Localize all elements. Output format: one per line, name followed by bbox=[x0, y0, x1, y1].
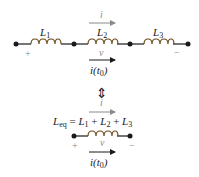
minus-sign: − bbox=[129, 140, 135, 151]
voltage-label-top: v bbox=[99, 47, 104, 58]
voltage-label-bottom: v bbox=[100, 137, 105, 148]
equivalent-inductance-equation: Leq = L1 + L2 + L3 bbox=[52, 115, 132, 129]
top-circuit: i L1 L2 L3 + v − i(t0) bbox=[14, 9, 191, 78]
node-dot-icon bbox=[72, 42, 77, 47]
inductor-label-l1: L1 bbox=[39, 26, 50, 40]
node-dot-icon bbox=[186, 42, 191, 47]
series-inductor-diagram: i L1 L2 L3 + v − i(t0) ⇕ i Leq = L1 bbox=[0, 0, 199, 177]
current-label-bottom: i bbox=[100, 97, 103, 108]
node-dot-icon bbox=[72, 134, 77, 139]
inductor-leq-coil-icon bbox=[88, 131, 118, 136]
current-label-top: i bbox=[100, 9, 103, 20]
initial-current-label-bottom: i(t0) bbox=[90, 156, 108, 170]
plus-sign: + bbox=[72, 140, 78, 151]
bottom-circuit: i Leq = L1 + L2 + L3 + v − i(t0) bbox=[52, 97, 135, 170]
minus-sign: − bbox=[174, 47, 180, 58]
node-dot-icon bbox=[14, 42, 19, 47]
plus-sign: + bbox=[25, 48, 31, 59]
inductor-label-l2: L2 bbox=[96, 26, 107, 40]
initial-current-label-top: i(t0) bbox=[90, 64, 108, 78]
node-dot-icon bbox=[128, 134, 133, 139]
inductor-label-l3: L3 bbox=[152, 26, 163, 40]
node-dot-icon bbox=[128, 42, 133, 47]
